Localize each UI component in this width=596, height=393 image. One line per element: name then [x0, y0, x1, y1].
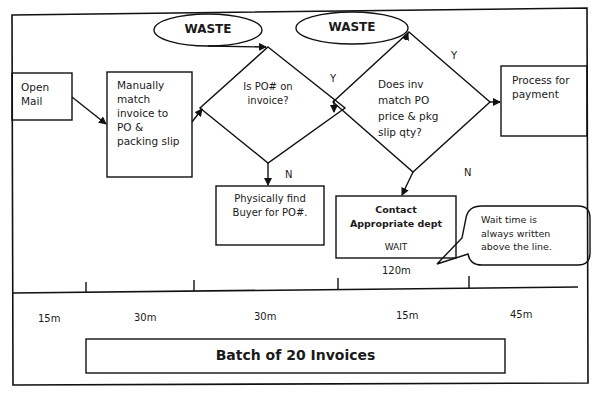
decision-match-label: Does inv match PO price & pkg slip qty? [378, 76, 438, 140]
callout-text: Wait time is always written above the li… [481, 213, 552, 254]
process-time-5: 45m [510, 308, 532, 322]
edge-label-match-yes: Y [451, 49, 457, 63]
manual-match-label: Manually match invoice to PO & packing s… [117, 78, 180, 148]
process-time-4: 15m [396, 309, 418, 323]
contact-dept-label: Contact Appropriate dept [338, 203, 454, 231]
edge-label-po-yes: Y [330, 72, 336, 86]
batch-label: Batch of 20 Invoices [86, 346, 505, 364]
process-time-3: 30m [254, 310, 276, 324]
edge-label-po-no: N [285, 168, 292, 182]
timeline-line [13, 287, 578, 293]
waste-label-1: WASTE [168, 22, 248, 36]
find-buyer-label: Physically find Buyer for PO#. [218, 192, 322, 220]
edge-label-match-no: N [464, 166, 471, 180]
waste-label-2: WASTE [312, 20, 392, 34]
process-time-1: 15m [38, 312, 60, 326]
arrow-openmail-to-manual [72, 97, 106, 124]
arrow-waste1-to-decision-po [208, 46, 266, 47]
decision-po-label: Is PO# on invoice? [228, 80, 308, 108]
arrow-decision-match-no [402, 172, 413, 195]
process-payment-label: Process for payment [512, 73, 570, 101]
open-mail-label: Open Mail [21, 80, 49, 108]
process-time-2: 30m [134, 311, 156, 325]
arrow-manual-to-decision-po [192, 109, 202, 122]
wait-time-label: 120m [382, 264, 411, 278]
contact-wait-label: WAIT [338, 240, 454, 254]
